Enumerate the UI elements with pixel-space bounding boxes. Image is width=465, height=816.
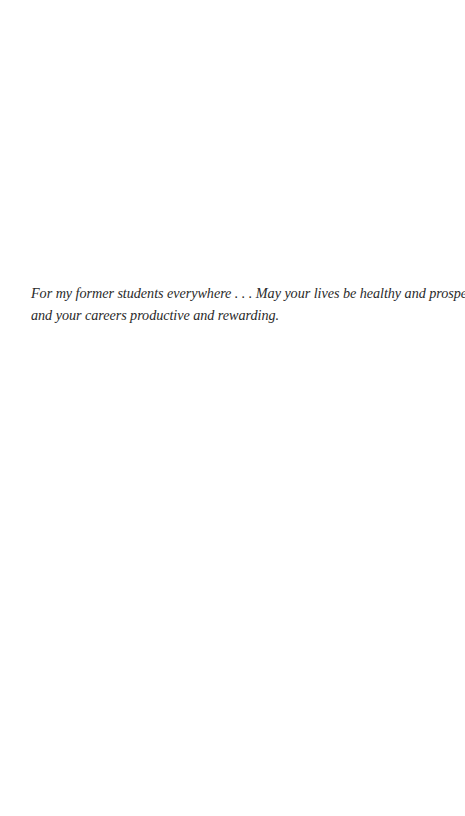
dedication-page: For my former students everywhere . . . … [0, 0, 465, 816]
dedication-line-1: For my former students everywhere . . . … [31, 282, 451, 304]
dedication-line-2: and your careers productive and rewardin… [31, 304, 451, 326]
dedication-text: For my former students everywhere . . . … [31, 282, 451, 326]
